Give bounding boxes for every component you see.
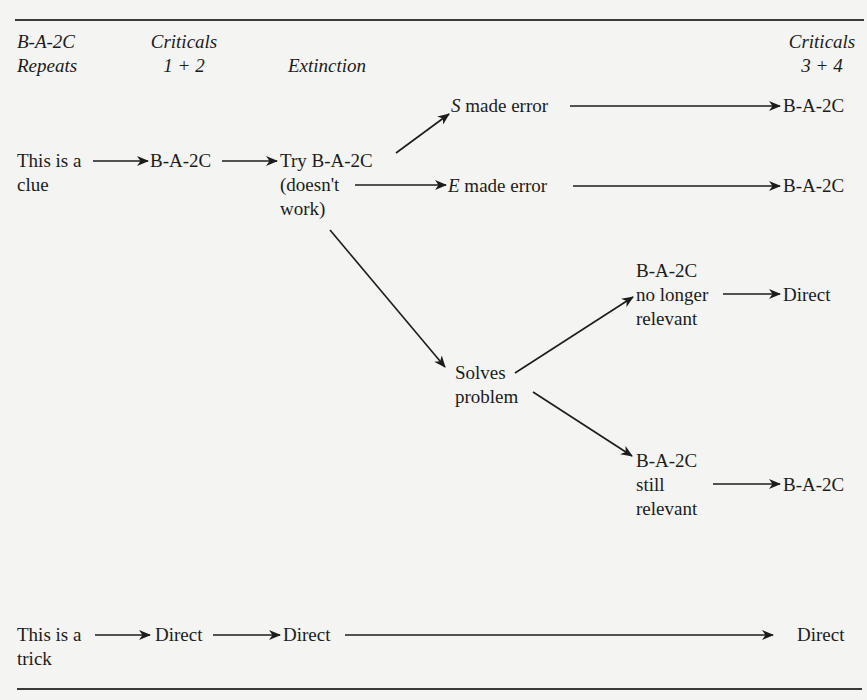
node-solves-line2: problem — [455, 385, 518, 409]
node-trick-direct-2: Direct — [283, 623, 330, 647]
node-no-longer-line1: B-A-2C — [636, 259, 708, 283]
node-still-line3: relevant — [636, 497, 697, 521]
e-letter: E — [448, 175, 460, 196]
node-no-longer-line3: relevant — [636, 307, 708, 331]
node-solves-problem: Solves problem — [455, 361, 518, 409]
node-still-relevant: B-A-2C still relevant — [636, 449, 697, 521]
node-still-line2: still — [636, 473, 697, 497]
header-extinction-line1: Extinction — [288, 54, 366, 78]
node-s-made-error: S made error — [451, 94, 548, 118]
arrows-layer — [0, 0, 867, 700]
node-solves-line1: Solves — [455, 361, 518, 385]
node-this-is-a-trick: This is a trick — [17, 623, 81, 671]
node-try-line1: Try B-A-2C — [280, 149, 373, 173]
header-criticals-3-4-line2: 3 + 4 — [782, 54, 862, 78]
node-criticals-b-a-2c-text: B-A-2C — [150, 149, 211, 173]
node-e-made-error: E made error — [448, 174, 547, 198]
header-criticals-1-2: Criticals 1 + 2 — [146, 30, 222, 78]
node-no-longer-line2: no longer — [636, 283, 708, 307]
s-error-result-text: B-A-2C — [783, 94, 844, 118]
header-repeats-line2: Repeats — [17, 54, 77, 78]
header-criticals-3-4: Criticals 3 + 4 — [782, 30, 862, 78]
node-e-error-result: B-A-2C — [783, 174, 844, 198]
arrow-work-to-solves — [330, 230, 445, 367]
node-clue-line1: This is a — [17, 149, 81, 173]
header-criticals-1-2-line1: Criticals — [146, 30, 222, 54]
node-still-result: B-A-2C — [783, 473, 844, 497]
node-try-line2: (doesn't — [280, 173, 373, 197]
node-no-longer-relevant: B-A-2C no longer relevant — [636, 259, 708, 331]
node-still-line1: B-A-2C — [636, 449, 697, 473]
node-trick-direct-1: Direct — [155, 623, 202, 647]
node-try-b-a-2c: Try B-A-2C (doesn't work) — [280, 149, 373, 221]
header-repeats: B-A-2C Repeats — [17, 30, 77, 78]
e-error-result-text: B-A-2C — [783, 174, 844, 198]
node-this-is-a-clue: This is a clue — [17, 149, 81, 197]
node-criticals-b-a-2c: B-A-2C — [150, 149, 211, 173]
header-extinction: Extinction — [288, 54, 366, 78]
node-trick-result: Direct — [797, 623, 844, 647]
node-trick-line1: This is a — [17, 623, 81, 647]
header-repeats-line1: B-A-2C — [17, 30, 77, 54]
arrow-problem-to-still — [533, 392, 632, 456]
still-result-text: B-A-2C — [783, 473, 844, 497]
node-trick-line2: trick — [17, 647, 81, 671]
node-try-line3: work) — [280, 197, 373, 221]
arrow-solves-to-no-longer — [515, 297, 633, 373]
node-trick-direct-1-text: Direct — [155, 623, 202, 647]
header-criticals-3-4-line1: Criticals — [782, 30, 862, 54]
e-error-text: made error — [460, 175, 548, 196]
arrow-try-to-s-error — [396, 114, 449, 153]
node-trick-direct-2-text: Direct — [283, 623, 330, 647]
s-error-text: made error — [461, 95, 549, 116]
no-longer-result-text: Direct — [783, 283, 830, 307]
flow-diagram: B-A-2C Repeats Criticals 1 + 2 Extinctio… — [0, 0, 867, 700]
node-clue-line2: clue — [17, 173, 81, 197]
s-letter: S — [451, 95, 461, 116]
node-no-longer-result: Direct — [783, 283, 830, 307]
node-s-error-result: B-A-2C — [783, 94, 844, 118]
node-trick-result-text: Direct — [797, 623, 844, 647]
header-criticals-1-2-line2: 1 + 2 — [146, 54, 222, 78]
